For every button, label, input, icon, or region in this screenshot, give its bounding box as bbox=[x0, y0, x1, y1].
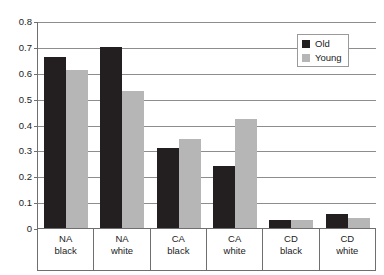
y-axis-label: 0.3 bbox=[19, 147, 32, 157]
y-axis-label: 0.2 bbox=[19, 173, 32, 183]
bar-group bbox=[151, 22, 207, 228]
bar-young bbox=[179, 139, 201, 228]
bar-old bbox=[269, 220, 291, 228]
legend-item-young: Young bbox=[302, 52, 342, 63]
legend-label-young: Young bbox=[315, 52, 342, 63]
x-axis-category-band: NAblackNAwhiteCAblackCAwhiteCDblackCDwhi… bbox=[37, 229, 376, 271]
x-axis-label-line2: white bbox=[224, 245, 246, 257]
x-axis-label-line2: black bbox=[167, 245, 189, 257]
x-axis-label-line1: CD bbox=[340, 233, 354, 245]
bar-young bbox=[348, 218, 370, 228]
y-axis-label: 0.7 bbox=[19, 43, 32, 53]
x-axis-category: NAwhite bbox=[93, 229, 149, 270]
caption-strip bbox=[0, 266, 384, 275]
bar-old bbox=[44, 57, 66, 228]
bar-young bbox=[66, 70, 88, 228]
y-axis-label: 0.1 bbox=[19, 198, 32, 208]
x-axis-category: NAblack bbox=[37, 229, 93, 270]
x-axis-label-line1: CA bbox=[172, 233, 185, 245]
y-axis-label: 0.8 bbox=[19, 17, 32, 27]
x-axis-label-line2: black bbox=[55, 245, 77, 257]
x-axis-label-line2: white bbox=[336, 245, 358, 257]
legend-swatch-old bbox=[302, 40, 310, 48]
bar-chart: 0.80.70.60.50.40.30.20.10 NAblackNAwhite… bbox=[0, 0, 384, 275]
bar-old bbox=[157, 148, 179, 228]
x-axis-category: CDblack bbox=[262, 229, 318, 270]
bar-old bbox=[326, 214, 348, 228]
legend-item-old: Old bbox=[302, 38, 342, 49]
bar-old bbox=[100, 47, 122, 228]
bar-young bbox=[235, 119, 257, 228]
bar-old bbox=[213, 166, 235, 228]
legend-label-old: Old bbox=[315, 38, 330, 49]
x-axis-category: CAblack bbox=[150, 229, 206, 270]
x-axis-category: CAwhite bbox=[206, 229, 262, 270]
bar-group bbox=[94, 22, 150, 228]
x-axis-category: CDwhite bbox=[319, 229, 376, 270]
bar-young bbox=[122, 91, 144, 228]
chart-legend: Old Young bbox=[297, 34, 349, 67]
bar-young bbox=[291, 220, 313, 228]
y-axis-label: 0 bbox=[27, 224, 32, 234]
y-axis-label: 0.5 bbox=[19, 95, 32, 105]
y-axis-label: 0.6 bbox=[19, 69, 32, 79]
y-axis-label: 0.4 bbox=[19, 121, 32, 131]
x-axis-label-line1: NA bbox=[59, 233, 72, 245]
x-axis-label-line2: black bbox=[280, 245, 302, 257]
bar-group bbox=[38, 22, 94, 228]
x-axis-label-line2: white bbox=[111, 245, 133, 257]
legend-swatch-young bbox=[302, 54, 310, 62]
x-axis-label-line1: NA bbox=[115, 233, 128, 245]
bar-group bbox=[207, 22, 263, 228]
x-axis-label-line1: CD bbox=[284, 233, 298, 245]
x-axis-label-line1: CA bbox=[228, 233, 241, 245]
